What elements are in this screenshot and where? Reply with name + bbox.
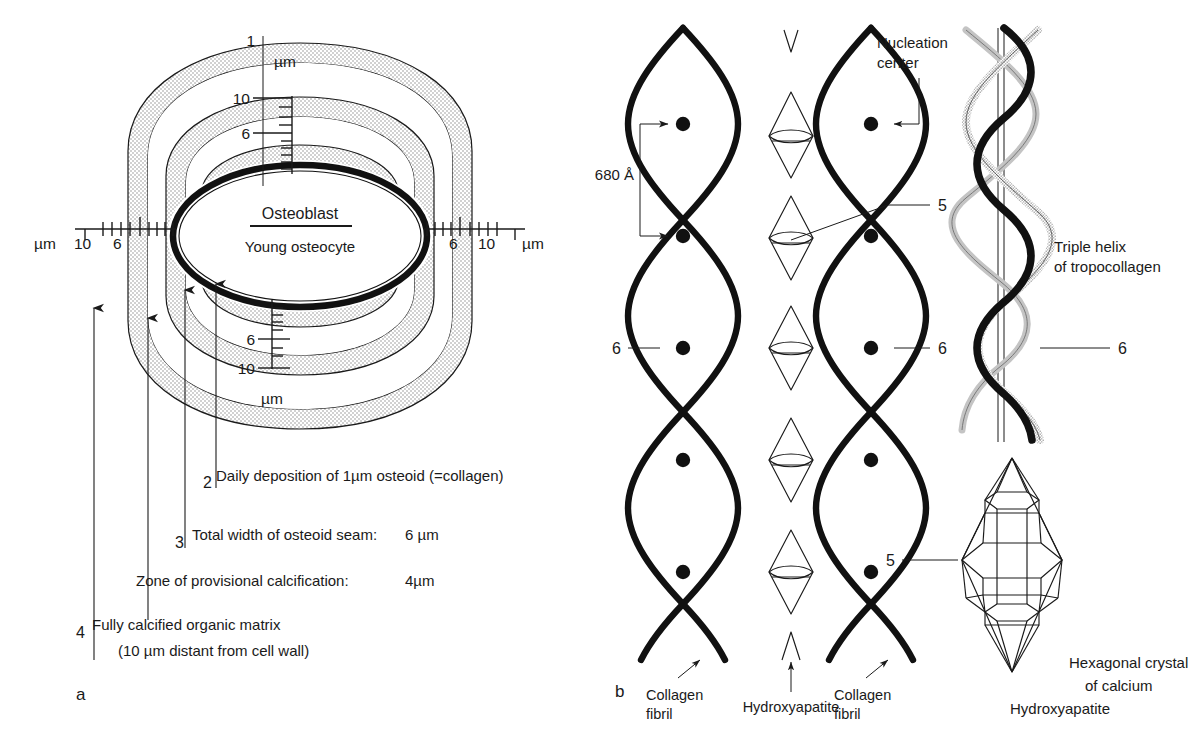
scale-left-unit: µm	[34, 235, 56, 252]
scale-right-unit: µm	[522, 235, 544, 252]
scale-bottom-tick-10: 10	[238, 360, 256, 377]
nucleation-center-dot	[864, 229, 878, 243]
legend-value-3: 6 µm	[405, 526, 439, 543]
legend-text-4b: (10 µm distant from cell wall)	[118, 642, 309, 659]
nucleation-center-dot	[676, 565, 690, 579]
nucleation-center-dot	[676, 453, 690, 467]
nucleation-center-dot	[864, 565, 878, 579]
scale-right-tick-10: 10	[478, 235, 496, 252]
scale-left-tick-10: 10	[74, 235, 92, 252]
nucleation-center-label-line1: Nucleation	[877, 34, 948, 51]
scale-top-tick-10: 10	[233, 90, 251, 107]
legend-value-zone: 4µm	[405, 572, 434, 589]
nucleation-center-dot	[676, 229, 690, 243]
nucleation-center-dot	[864, 453, 878, 467]
scale-top-unit: µm	[274, 53, 296, 70]
callout-number-6-left: 6	[612, 340, 621, 357]
collagen-fibril-right-label-line2: fibril	[834, 706, 861, 722]
collagen-fibril-left-label-line2: fibril	[646, 706, 673, 722]
scale-top-tick-6: 6	[241, 125, 250, 142]
collagen-fibril-left-label-line1: Collagen	[646, 687, 703, 703]
crystal-label-line3: Hydroxyapatite	[1010, 700, 1110, 717]
spacing-label: 680 Å	[595, 166, 634, 183]
legend-text-zone: Zone of provisional calcification:	[136, 572, 349, 589]
osteoblast-label: Osteoblast	[262, 205, 339, 222]
nucleation-center-dot	[864, 117, 878, 131]
scale-bottom-unit: µm	[261, 390, 283, 407]
nucleation-center-dot	[676, 341, 690, 355]
legend-number-3: 3	[175, 534, 184, 551]
legend-text-2: Daily deposition of 1µm osteoid (=collag…	[216, 467, 504, 484]
triple-helix-label-line2: of tropocollagen	[1054, 258, 1161, 275]
collagen-fibril-right-label-line1: Collagen	[834, 687, 891, 703]
callout-number-5-fibril: 5	[938, 197, 947, 214]
crystal-label-line2: of calcium	[1085, 677, 1153, 694]
callout-number-6-right: 6	[938, 340, 947, 357]
young-osteocyte-label: Young osteocyte	[245, 238, 355, 255]
cell-membrane	[167, 160, 433, 312]
nucleation-center-label-line2: center	[877, 54, 919, 71]
crystal-label-line1: Hexagonal crystal	[1069, 654, 1188, 671]
triple-helix-label-line1: Triple helix	[1054, 238, 1126, 255]
hydroxyapatite-label: Hydroxyapatite	[743, 699, 840, 715]
legend-number-4: 4	[76, 624, 85, 641]
scale-right-tick-6: 6	[449, 235, 458, 252]
nucleation-center-dot	[676, 117, 690, 131]
panel-label-b: b	[615, 682, 624, 701]
legend-number-2: 2	[203, 474, 212, 491]
legend-text-3: Total width of osteoid seam:	[192, 526, 377, 543]
callout-number-6-helix: 6	[1118, 340, 1127, 357]
callout-number-5-crystal: 5	[886, 552, 895, 569]
scale-bottom-tick-6: 6	[246, 331, 255, 348]
scale-top-value: 1	[246, 32, 255, 49]
legend-text-4: Fully calcified organic matrix	[92, 616, 281, 633]
panel-label-a: a	[76, 685, 86, 704]
figure-root: Osteoblast Young osteocyte 1 µm 10 6	[0, 0, 1197, 746]
scale-left-tick-6: 6	[113, 235, 122, 252]
nucleation-center-dot	[864, 341, 878, 355]
